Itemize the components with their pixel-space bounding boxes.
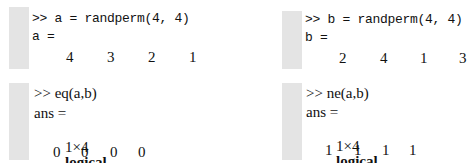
gutter-bar [9, 83, 29, 160]
command-line: >> ne(a,b) [306, 86, 369, 101]
value-cell: 1 [189, 50, 197, 65]
variable-label: ans = [306, 105, 338, 120]
value-cell: 4 [380, 51, 388, 66]
value-cell: 1 [420, 51, 428, 66]
variable-label: b = [305, 31, 328, 44]
command-line: >> b = randperm(4, 4) [305, 13, 463, 26]
value-cell: 0 [110, 145, 118, 160]
value-cell: 4 [66, 50, 74, 65]
value-cell: 3 [459, 51, 467, 66]
value-cell: 0 [138, 145, 146, 160]
value-cell: 0 [81, 145, 89, 160]
value-cell: 0 [53, 145, 61, 160]
value-cell: 1 [325, 143, 333, 158]
gutter-bar [9, 7, 29, 69]
value-cell: 1 [409, 143, 417, 158]
variable-label: a = [32, 30, 55, 43]
value-cell: 1 [354, 143, 362, 158]
variable-label: ans = [34, 106, 66, 121]
gutter-bar [282, 83, 302, 160]
value-cell: 1 [382, 143, 390, 158]
value-cell: 2 [148, 50, 156, 65]
value-cell: 2 [339, 51, 347, 66]
command-line: >> a = randperm(4, 4) [32, 12, 190, 25]
gutter-bar [282, 11, 302, 69]
command-line: >> eq(a,b) [34, 86, 97, 101]
value-cell: 3 [107, 50, 115, 65]
